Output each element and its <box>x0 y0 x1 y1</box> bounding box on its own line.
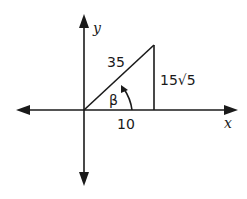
y-axis-label: y <box>93 21 101 35</box>
x-axis-left-arrow-icon <box>16 105 30 115</box>
x-axis-right-arrow-icon <box>224 105 238 115</box>
angle-arrow-icon <box>121 85 128 93</box>
opposite-side-label: 15√5 <box>160 73 196 87</box>
coordinate-diagram <box>0 0 247 199</box>
x-axis-label: x <box>224 116 232 130</box>
angle-label: β <box>109 93 118 107</box>
y-axis-down-arrow-icon <box>79 172 89 186</box>
y-axis-up-arrow-icon <box>79 14 89 28</box>
adjacent-side-label: 10 <box>117 117 135 131</box>
hypotenuse-label: 35 <box>107 55 125 69</box>
angle-arc <box>124 89 132 110</box>
